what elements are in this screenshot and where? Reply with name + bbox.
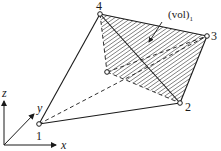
node-label-2: 2 xyxy=(185,100,191,114)
node-3 xyxy=(205,34,210,39)
edge-1-4 xyxy=(39,14,100,124)
node-1 xyxy=(37,122,42,127)
node-label-1: 1 xyxy=(36,129,42,143)
node-label-3: 3 xyxy=(211,29,217,43)
volume-label: (vol)1 xyxy=(168,8,193,23)
node-label-4: 4 xyxy=(96,0,102,13)
y-axis xyxy=(4,114,34,145)
node-hidden xyxy=(105,70,110,75)
node-2 xyxy=(178,101,183,106)
y-axis-label: y xyxy=(36,101,43,115)
tetrahedron-diagram: 1 2 3 4 (vol)1 z x y xyxy=(0,0,221,151)
z-axis-label: z xyxy=(1,86,7,100)
x-axis-label: x xyxy=(60,138,67,151)
edge-1-2 xyxy=(39,103,180,124)
